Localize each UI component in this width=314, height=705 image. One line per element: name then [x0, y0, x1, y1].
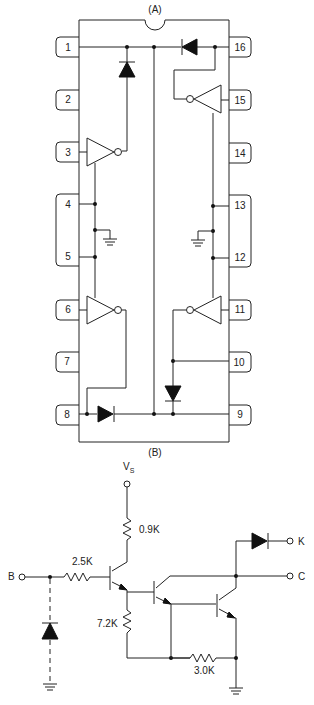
pin-6: 6 — [56, 300, 79, 320]
resistor-icon — [190, 654, 216, 662]
transistor-icon — [110, 566, 127, 590]
diode-icon — [182, 39, 197, 55]
diode-icon — [252, 533, 268, 549]
pin-10: 10 — [229, 352, 251, 372]
svg-text:10: 10 — [233, 357, 245, 368]
svg-text:5: 5 — [65, 251, 71, 262]
pin-16: 16 — [229, 37, 251, 57]
svg-text:7: 7 — [64, 356, 70, 367]
resistor-label-2.5k: 2.5K — [72, 556, 93, 567]
supply-label: VS — [123, 461, 135, 474]
ground-icon — [229, 688, 243, 694]
pin-3: 3 — [56, 142, 79, 162]
vs-terminal — [124, 481, 130, 487]
diode-icon — [98, 406, 114, 422]
equivalent-circuit: VS 0.9K B 2.5K — [8, 461, 305, 694]
pin-13-12-block: 13 12 — [229, 195, 251, 267]
ground-icon — [43, 684, 57, 690]
pin-9: 9 — [229, 405, 251, 425]
diode-icon — [165, 386, 181, 401]
svg-text:9: 9 — [237, 409, 243, 420]
circuit-diagram: (A) 1 2 3 4 5 6 7 — [0, 0, 314, 705]
diode-icon — [42, 623, 58, 639]
pin-11: 11 — [229, 300, 251, 320]
base-terminal — [19, 574, 25, 580]
inverter-icon — [87, 296, 122, 324]
resistor-label-3.0k: 3.0K — [194, 665, 215, 676]
svg-text:16: 16 — [234, 42, 246, 53]
resistor-icon — [123, 518, 131, 540]
pin-4-5-block: 4 5 — [56, 194, 79, 266]
pin-15: 15 — [229, 90, 251, 110]
svg-text:15: 15 — [234, 95, 246, 106]
right-pins: 16 15 14 13 12 11 10 9 — [229, 37, 251, 425]
inverter-icon — [187, 85, 222, 113]
inverter-icon — [87, 138, 122, 166]
panel-a-label: (A) — [148, 4, 161, 15]
transistor-icon — [217, 588, 236, 618]
svg-text:11: 11 — [235, 304, 246, 315]
panel-b-label: (B) — [148, 447, 161, 458]
terminal-k-label: K — [298, 536, 305, 547]
terminal-c-label: C — [298, 571, 305, 582]
svg-text:6: 6 — [65, 304, 71, 315]
svg-text:4: 4 — [65, 199, 71, 210]
c-terminal — [287, 573, 293, 579]
ground-icon — [103, 239, 117, 245]
pin-14: 14 — [229, 143, 251, 163]
terminal-b-label: B — [8, 571, 15, 582]
resistor-icon — [123, 610, 131, 633]
inverter-icon — [187, 296, 222, 324]
diode-icon — [119, 62, 135, 77]
svg-text:8: 8 — [64, 409, 70, 420]
internal-wiring — [79, 39, 229, 422]
svg-text:3: 3 — [65, 147, 71, 158]
svg-text:2: 2 — [65, 94, 71, 105]
k-terminal — [287, 538, 293, 544]
svg-text:12: 12 — [234, 252, 246, 263]
svg-text:13: 13 — [234, 200, 246, 211]
pin-8: 8 — [56, 405, 79, 425]
resistor-label-0.9k: 0.9K — [139, 524, 160, 535]
resistor-label-7.2k: 7.2K — [97, 618, 118, 629]
pin-2: 2 — [56, 90, 79, 110]
svg-text:1: 1 — [65, 42, 71, 53]
svg-text:14: 14 — [234, 148, 246, 159]
pin-7: 7 — [56, 352, 79, 372]
resistor-icon — [64, 573, 90, 581]
transistor-icon — [154, 576, 171, 604]
left-pins: 1 2 3 4 5 6 7 8 — [56, 37, 79, 425]
ground-icon — [191, 240, 205, 246]
pin-1: 1 — [56, 37, 79, 57]
